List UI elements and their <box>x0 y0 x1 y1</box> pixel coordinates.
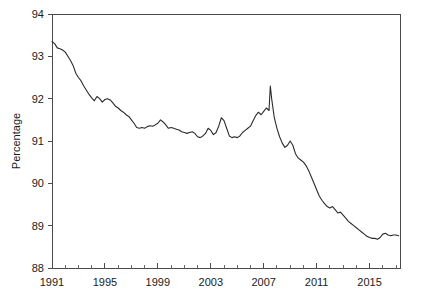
x-tick-label: 1999 <box>146 276 170 288</box>
x-tick-label: 2011 <box>305 276 329 288</box>
line-chart: 88899091929394 1991199519992003200720112… <box>0 0 422 308</box>
y-tick-label: 93 <box>32 50 44 62</box>
x-tick-label: 2007 <box>251 276 275 288</box>
y-tick-label: 90 <box>32 177 44 189</box>
x-tick-label: 2015 <box>357 276 381 288</box>
chart-background <box>0 0 422 308</box>
y-tick-label: 88 <box>32 262 44 274</box>
y-axis-title: Percentage <box>10 113 22 169</box>
y-tick-label: 92 <box>32 93 44 105</box>
y-tick-label: 89 <box>32 220 44 232</box>
chart-container: 88899091929394 1991199519992003200720112… <box>0 0 422 308</box>
y-tick-label: 94 <box>32 8 44 20</box>
y-tick-label: 91 <box>32 135 44 147</box>
x-tick-label: 1991 <box>40 276 64 288</box>
x-tick-label: 2003 <box>199 276 223 288</box>
x-tick-label: 1995 <box>93 276 117 288</box>
